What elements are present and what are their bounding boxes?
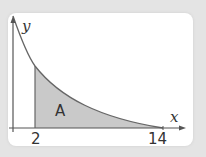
tick-label-2: 2 [31, 130, 41, 148]
area-label: A [55, 102, 65, 120]
tick-label-14: 14 [148, 130, 167, 148]
x-axis-label: x [170, 108, 178, 126]
x-axis-arrow-icon [179, 126, 186, 131]
y-axis-label: y [22, 17, 30, 35]
